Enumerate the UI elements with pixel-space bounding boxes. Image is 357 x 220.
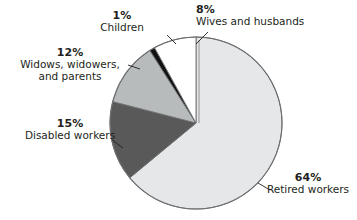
slice-name-disabled: Disabled workers bbox=[4, 130, 136, 142]
slice-name-retired: Retired workers bbox=[262, 184, 354, 196]
pie-chart: 8% Wives and husbands 1% Children 12% Wi… bbox=[0, 0, 357, 220]
slice-name-wives: Wives and husbands bbox=[196, 16, 304, 28]
slice-label-widows: 12% Widows, widowers, and parents bbox=[4, 47, 136, 83]
slice-label-retired: 64% Retired workers bbox=[262, 172, 354, 196]
slice-label-children: 1% Children bbox=[84, 10, 160, 34]
slice-name-widows-line2: and parents bbox=[4, 71, 136, 83]
slice-name-children: Children bbox=[84, 22, 160, 34]
slice-label-disabled: 15% Disabled workers bbox=[4, 118, 136, 142]
slice-label-wives: 8% Wives and husbands bbox=[196, 4, 304, 28]
